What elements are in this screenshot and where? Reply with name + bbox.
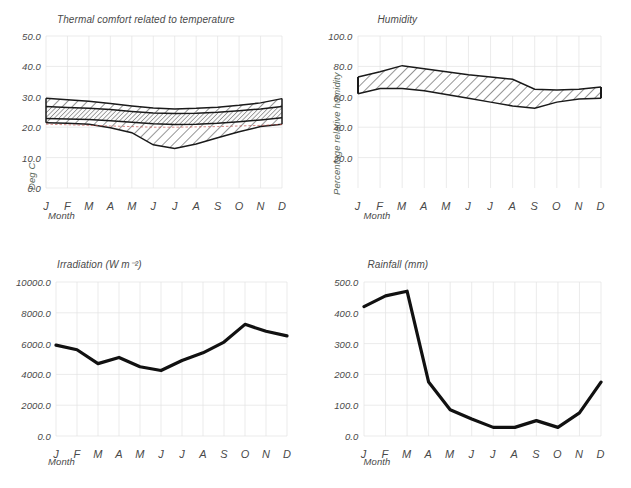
panel-thermal-comfort: Thermal comfort related to temperature D…: [0, 0, 316, 244]
x-tick-label-month: J: [179, 448, 185, 460]
x-tick-label-month: F: [64, 200, 71, 212]
x-tick-label-month: J: [53, 448, 59, 460]
x-tick-label-month: M: [127, 200, 136, 212]
x-tick-label-month: F: [74, 448, 81, 460]
x-tick-label-month: A: [420, 200, 427, 212]
panel-humidity: Humidity Percentage relative humidity Mo…: [316, 0, 631, 244]
y-tick-label: 6000.0: [0, 338, 51, 349]
plot-area-humidity: [316, 0, 631, 244]
y-tick-label: 60.0: [316, 91, 353, 102]
y-tick-label: 20.0: [316, 152, 353, 163]
x-tick-label-month: J: [158, 448, 164, 460]
x-tick-label-month: J: [468, 448, 474, 460]
x-tick-label-month: M: [93, 448, 102, 460]
x-tick-label-month: M: [402, 448, 411, 460]
x-tick-label-month: J: [150, 200, 156, 212]
x-tick-label-month: D: [596, 200, 604, 212]
y-tick-label: 300.0: [316, 338, 359, 349]
x-tick-label-month: J: [355, 200, 361, 212]
x-tick-label-month: M: [445, 448, 454, 460]
x-tick-label-month: M: [84, 200, 93, 212]
x-tick-label-month: D: [283, 448, 291, 460]
x-tick-label-month: N: [574, 200, 582, 212]
x-tick-label-month: J: [487, 200, 493, 212]
x-tick-label-month: O: [241, 448, 250, 460]
x-tick-label-month: S: [214, 200, 221, 212]
x-tick-label-month: A: [511, 448, 518, 460]
y-tick-label: 50.0: [0, 31, 41, 42]
x-tick-label-month: J: [43, 200, 49, 212]
y-tick-label: 0.0: [316, 431, 359, 442]
x-tick-label-month: M: [135, 448, 144, 460]
x-tick-label-month: F: [376, 200, 383, 212]
x-tick-label-month: O: [553, 448, 562, 460]
panel-rainfall: Rainfall (mm) Month 0.0100.0200.0300.040…: [316, 244, 631, 488]
y-tick-label: 40.0: [316, 122, 353, 133]
x-tick-label-month: A: [424, 448, 431, 460]
x-tick-label-month: A: [115, 448, 122, 460]
x-tick-label-month: M: [397, 200, 406, 212]
x-tick-label-month: D: [278, 200, 286, 212]
y-tick-label: 0.0: [0, 431, 51, 442]
x-tick-label-month: J: [361, 448, 367, 460]
x-tick-label-month: S: [531, 200, 538, 212]
y-tick-label: 20.0: [0, 122, 41, 133]
panel-irradiation: Irradiation (W m⁻²) Month 0.02000.04000.…: [0, 244, 316, 488]
x-tick-label-month: A: [508, 200, 515, 212]
x-tick-label-month: S: [532, 448, 539, 460]
y-tick-label: 4000.0: [0, 369, 51, 380]
x-tick-label-month: A: [192, 200, 199, 212]
y-tick-label: 0.0: [0, 183, 41, 194]
x-tick-label-month: N: [257, 200, 265, 212]
x-tick-label-month: O: [552, 200, 561, 212]
y-tick-label: 500.0: [316, 277, 359, 288]
x-tick-label-month: M: [441, 200, 450, 212]
y-tick-label: 10000.0: [0, 277, 51, 288]
x-tick-label-month: O: [235, 200, 244, 212]
x-tick-label-month: D: [596, 448, 604, 460]
x-tick-label-month: A: [107, 200, 114, 212]
x-tick-label-month: J: [172, 200, 178, 212]
y-tick-label: 30.0: [0, 91, 41, 102]
x-tick-label-month: J: [465, 200, 471, 212]
x-tick-label-month: N: [575, 448, 583, 460]
x-tick-label-month: J: [490, 448, 496, 460]
y-tick-label: 40.0: [0, 61, 41, 72]
y-tick-label: 200.0: [316, 369, 359, 380]
x-tick-label-month: A: [199, 448, 206, 460]
y-tick-label: 100.0: [316, 400, 359, 411]
y-tick-label: 8000.0: [0, 307, 51, 318]
x-tick-label-month: F: [382, 448, 389, 460]
y-tick-label: 100.0: [316, 31, 353, 42]
y-tick-label: 80.0: [316, 61, 353, 72]
y-tick-label: 2000.0: [0, 400, 51, 411]
y-tick-label: 400.0: [316, 307, 359, 318]
x-tick-label-month: S: [220, 448, 227, 460]
figure-grid: Thermal comfort related to temperature D…: [0, 0, 631, 488]
y-tick-label: 10.0: [0, 152, 41, 163]
x-tick-label-month: N: [262, 448, 270, 460]
